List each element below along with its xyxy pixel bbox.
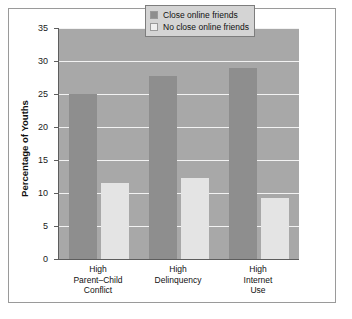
y-axis-tick-label: 10 [8, 188, 48, 198]
y-axis-tick-label: 0 [8, 254, 48, 264]
legend-label: No close online friends [163, 22, 249, 32]
category-label-line: Use [198, 285, 318, 296]
plot-area [58, 28, 299, 260]
bar [261, 198, 289, 259]
legend-item-close-online-friends: Close online friends [150, 9, 249, 21]
legend-swatch-icon-no-close-online-friends [150, 23, 158, 31]
y-axis-tick-label: 20 [8, 122, 48, 132]
category-label-line: High [198, 264, 318, 275]
y-axis-label: Percentage of Youths [19, 49, 30, 249]
category-label-line: Conflict [38, 285, 158, 296]
chart-legend: Close online friends No close online fri… [145, 5, 255, 37]
y-axis-tick-label: 5 [8, 221, 48, 231]
category-label-line: Internet [198, 275, 318, 286]
legend-swatch-icon-close-online-friends [150, 11, 158, 19]
legend-label: Close online friends [163, 10, 238, 20]
y-axis-tick-label: 30 [8, 56, 48, 66]
y-axis-tick-label: 35 [8, 23, 48, 33]
y-axis-tick-label: 15 [8, 155, 48, 165]
y-axis-tick-label: 25 [8, 89, 48, 99]
chart-figure: Percentage of Youths 05101520253035 High… [0, 0, 352, 319]
gridline [59, 61, 299, 62]
bar [181, 178, 209, 259]
legend-item-no-close-online-friends: No close online friends [150, 21, 249, 33]
x-axis-category-label: HighInternetUse [198, 264, 318, 296]
bar [101, 183, 129, 259]
bar [229, 68, 257, 259]
bar [149, 76, 177, 259]
bar [69, 94, 97, 259]
